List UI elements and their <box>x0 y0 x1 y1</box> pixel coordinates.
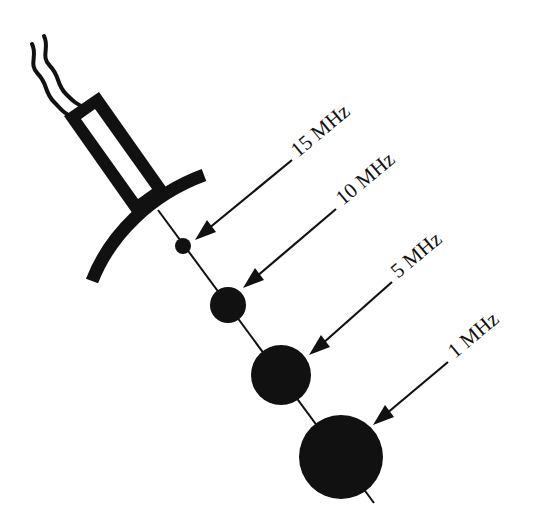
label-10mhz: 10 MHz <box>331 147 400 210</box>
arrow-1mhz-icon <box>373 362 448 425</box>
ultrasound-focal-spot-diagram: 15 MHz 10 MHz 5 MHz 1 MHz <box>0 0 549 530</box>
wavy-cable-icon <box>32 36 86 118</box>
focal-spot-15mhz <box>175 238 191 254</box>
arrow-10mhz-icon <box>243 209 336 288</box>
arrow-5mhz-icon <box>309 282 392 355</box>
label-15mhz: 15 MHz <box>286 99 355 162</box>
label-1mhz: 1 MHz <box>443 307 504 363</box>
focal-spot-10mhz <box>210 287 246 323</box>
focal-spots <box>175 238 383 499</box>
focal-spot-5mhz <box>251 345 311 405</box>
arrow-15mhz-icon <box>195 160 292 240</box>
focal-spot-1mhz <box>299 415 383 499</box>
label-5mhz: 5 MHz <box>386 227 447 283</box>
